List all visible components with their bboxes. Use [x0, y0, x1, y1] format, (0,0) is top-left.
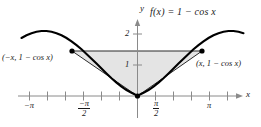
- x-tick-label-pi: π: [207, 100, 211, 110]
- x-tick-label-neg-pi: −π: [24, 100, 34, 110]
- y-axis-label: y: [140, 3, 144, 13]
- y-axis-arrow-icon: [135, 19, 140, 26]
- x-axis-arrow-icon: [236, 93, 243, 98]
- x-tick-label-neg-pi-over-2: −π 2: [78, 99, 90, 118]
- y-tick-label-2: 2: [125, 28, 129, 38]
- fraction-pi-over-2: π 2: [153, 99, 159, 117]
- fraction-neg-pi-over-2: −π 2: [78, 99, 90, 117]
- function-label: f(x) = 1 − cos x: [150, 6, 216, 17]
- cosine-function-figure: f(x) = 1 − cos x y x (−x, 1 − cos x) (x,…: [0, 0, 261, 127]
- point-label-right: (x, 1 − cos x): [196, 58, 241, 68]
- x-axis-label: x: [246, 89, 250, 99]
- point-marker-right: [199, 48, 204, 53]
- x-tick-label-pi-over-2: π 2: [153, 99, 159, 118]
- point-marker-origin: [135, 93, 140, 98]
- y-tick-label-1: 1: [125, 59, 129, 69]
- point-marker-left: [69, 48, 74, 53]
- point-label-left: (−x, 1 − cos x): [2, 52, 53, 62]
